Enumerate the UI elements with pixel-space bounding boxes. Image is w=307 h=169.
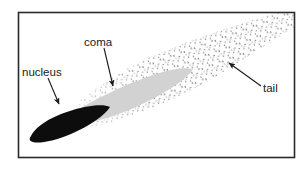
coma-label: coma (84, 36, 113, 48)
nucleus-label: nucleus (22, 66, 62, 78)
tail-label: tail (263, 82, 278, 94)
diagram-canvas: nucleus coma tail (0, 0, 307, 169)
comet-diagram: nucleus coma tail (0, 0, 307, 169)
